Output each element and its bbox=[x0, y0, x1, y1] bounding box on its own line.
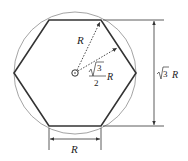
svg-text:R: R bbox=[171, 69, 178, 80]
side-label: R bbox=[70, 143, 78, 155]
radius-label: R bbox=[76, 34, 84, 46]
height-label: 3 R bbox=[156, 66, 186, 80]
svg-text:3: 3 bbox=[163, 69, 168, 79]
svg-text:3: 3 bbox=[97, 63, 102, 73]
apothem-label: 3 2 R bbox=[89, 62, 113, 88]
svg-text:2: 2 bbox=[94, 78, 99, 88]
svg-text:R: R bbox=[106, 71, 113, 82]
hexagon-diagram: R 3 2 R 3 R R bbox=[0, 0, 188, 161]
